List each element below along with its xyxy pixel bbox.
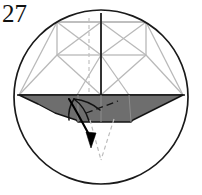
left-lower-diagonal-outer bbox=[19, 55, 57, 95]
origami-diagram-figure: 27 bbox=[0, 0, 202, 195]
left-outer-diagonal-crease bbox=[19, 22, 57, 95]
right-crease-panel bbox=[101, 22, 146, 55]
right-lower-diagonal-outer bbox=[146, 55, 183, 95]
shaded-flap bbox=[19, 95, 183, 122]
guide-dash-right bbox=[101, 119, 114, 160]
right-outer-diagonal-crease bbox=[146, 22, 183, 95]
left-lower-diagonal-inner bbox=[57, 55, 101, 95]
origami-diagram-canvas bbox=[0, 0, 202, 195]
fold-arrow-head bbox=[86, 132, 96, 148]
right-lower-diagonal-inner bbox=[101, 55, 146, 95]
step-number-label: 27 bbox=[2, 1, 27, 26]
left-crease-panel bbox=[57, 22, 101, 55]
center-right-lower-diagonal bbox=[101, 55, 129, 95]
